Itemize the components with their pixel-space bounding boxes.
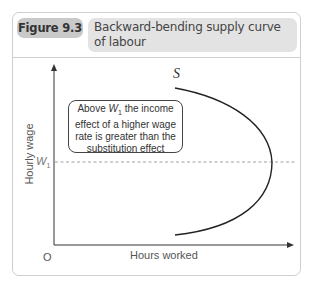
y-axis-label: Hourly wage — [23, 123, 35, 185]
x-axis-label: Hours worked — [130, 249, 198, 261]
x-axis-arrow-icon — [287, 242, 294, 248]
y-axis-arrow-icon — [51, 64, 57, 71]
supply-curve — [175, 88, 272, 235]
w1-label: W1 — [36, 155, 50, 169]
curve-label: S — [173, 66, 180, 82]
origin-label: O — [43, 251, 52, 263]
annotation-box: Above W1 the income effect of a higher w… — [68, 100, 183, 153]
